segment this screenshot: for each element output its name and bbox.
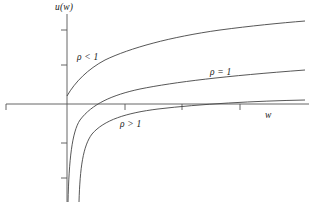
x-axis-label: w <box>265 111 272 121</box>
chart-canvas <box>0 0 309 202</box>
curve-rho-lt-1 <box>67 21 305 96</box>
curve-label-rho-gt-1: ρ > 1 <box>120 120 141 130</box>
curve-rho-eq-1 <box>68 70 305 202</box>
curve-label-rho-eq-1: ρ = 1 <box>210 68 231 78</box>
utility-function-chart: u(w) w ρ < 1 ρ = 1 ρ > 1 <box>0 0 309 202</box>
curve-label-rho-lt-1: ρ < 1 <box>77 53 98 63</box>
y-axis-label: u(w) <box>55 3 73 13</box>
